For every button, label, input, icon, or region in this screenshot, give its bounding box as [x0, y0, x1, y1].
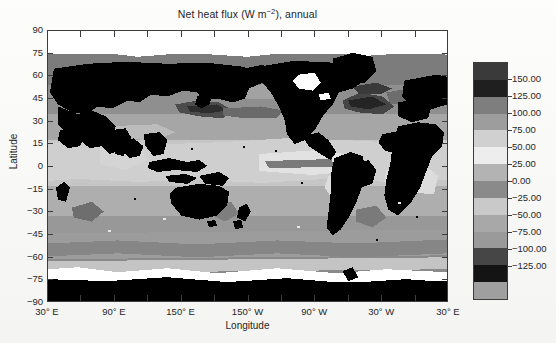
y-tick-mark [442, 279, 447, 280]
map-plot-area [47, 30, 448, 302]
y-axis-title: Latitude [8, 117, 19, 187]
x-tick-mark [80, 295, 81, 301]
colorbar-segment [474, 130, 507, 147]
colorbar-tick-label: −125.00 [512, 260, 547, 271]
y-tick-mark [442, 211, 447, 212]
x-tick-mark [248, 31, 249, 37]
colorbar-segment [474, 97, 507, 114]
y-tick-mark [48, 257, 53, 258]
x-tick-mark [214, 295, 215, 301]
y-tick-label: 45 [3, 92, 43, 103]
x-tick-label: 30° W [368, 306, 394, 317]
x-tick-mark [381, 295, 382, 301]
y-tick-mark [48, 53, 53, 54]
figure-page: Net heat flux (W m−2), annual [0, 0, 556, 343]
x-tick-mark [314, 31, 315, 37]
x-tick-mark [214, 31, 215, 37]
colorbar-segment [474, 164, 507, 181]
x-tick-mark [80, 31, 81, 37]
colorbar-tick-label: 50.00 [512, 141, 536, 152]
colorbar-tick-label: 125.00 [512, 90, 541, 101]
colorbar-segment [474, 114, 507, 131]
x-tick-mark [147, 31, 148, 37]
colorbar-segment [474, 248, 507, 265]
y-tick-label: 60 [3, 69, 43, 80]
y-tick-label: −75 [3, 273, 43, 284]
colorbar-segment [474, 282, 507, 299]
colorbar-segment [474, 63, 507, 80]
x-tick-label: 90° E [102, 306, 125, 317]
x-tick-mark [415, 295, 416, 301]
x-tick-mark [314, 295, 315, 301]
colorbar: 150.00125.00100.0075.0050.0025.000.00−25… [473, 62, 551, 300]
y-tick-mark [442, 121, 447, 122]
y-tick-mark [442, 53, 447, 54]
title-tail-text: ), annual [275, 8, 317, 20]
x-axis-title: Longitude [47, 320, 448, 331]
y-tick-mark [442, 166, 447, 167]
y-tick-mark [48, 143, 53, 144]
colorbar-tick-label: −50.00 [512, 209, 541, 220]
x-tick-mark [147, 295, 148, 301]
x-tick-label: 90° W [301, 306, 327, 317]
x-axis-tick-labels: 30° E90° E150° E150° W90° W30° W30° E [47, 305, 448, 319]
colorbar-segment [474, 265, 507, 282]
y-tick-mark [442, 75, 447, 76]
y-tick-mark [442, 98, 447, 99]
y-tick-mark [48, 234, 53, 235]
y-tick-mark [48, 166, 53, 167]
y-tick-label: 75 [3, 47, 43, 58]
y-tick-mark [48, 75, 53, 76]
x-tick-mark [181, 31, 182, 37]
colorbar-tick-label: 150.00 [512, 73, 541, 84]
x-tick-label: 30° E [35, 306, 58, 317]
colorbar-gradient [473, 62, 508, 300]
y-tick-label: 90 [3, 24, 43, 35]
heatflux-map [48, 31, 447, 301]
y-tick-mark [48, 121, 53, 122]
page-title: Net heat flux (W m−2), annual [47, 8, 448, 20]
y-tick-mark [48, 189, 53, 190]
x-tick-mark [248, 295, 249, 301]
x-tick-mark [348, 31, 349, 37]
x-tick-label: 150° W [232, 306, 263, 317]
colorbar-segment [474, 80, 507, 97]
colorbar-segment [474, 198, 507, 215]
y-tick-label: −30 [3, 205, 43, 216]
colorbar-segment [474, 181, 507, 198]
x-tick-mark [114, 295, 115, 301]
colorbar-tick-labels: 150.00125.00100.0075.0050.0025.000.00−25… [508, 62, 551, 300]
x-tick-mark [348, 295, 349, 301]
x-tick-mark [181, 295, 182, 301]
colorbar-tick-label: 75.00 [512, 124, 536, 135]
y-tick-mark [442, 143, 447, 144]
x-tick-mark [281, 295, 282, 301]
colorbar-tick-label: 25.00 [512, 158, 536, 169]
y-tick-mark [48, 211, 53, 212]
y-tick-mark [442, 189, 447, 190]
y-tick-mark [442, 234, 447, 235]
y-tick-mark [442, 257, 447, 258]
colorbar-segment [474, 147, 507, 164]
x-tick-mark [415, 31, 416, 37]
y-tick-label: −60 [3, 251, 43, 262]
x-tick-mark [381, 31, 382, 37]
x-tick-mark [281, 31, 282, 37]
colorbar-tick-label: −100.00 [512, 243, 547, 254]
x-tick-label: 150° E [166, 306, 195, 317]
y-tick-mark [48, 98, 53, 99]
colorbar-segment [474, 215, 507, 232]
y-tick-mark [48, 279, 53, 280]
x-tick-mark [114, 31, 115, 37]
x-tick-label: 30° E [436, 306, 459, 317]
colorbar-segment [474, 232, 507, 249]
colorbar-tick-label: 100.00 [512, 107, 541, 118]
colorbar-tick-label: 0.00 [512, 175, 531, 186]
y-tick-label: −45 [3, 228, 43, 239]
colorbar-tick-label: −75.00 [512, 226, 541, 237]
colorbar-tick-label: −25.00 [512, 192, 541, 203]
title-main-text: Net heat flux (W m [178, 8, 267, 20]
y-axis-tick-labels: 9075604530150−15−30−45−60−75−90 [0, 30, 43, 302]
